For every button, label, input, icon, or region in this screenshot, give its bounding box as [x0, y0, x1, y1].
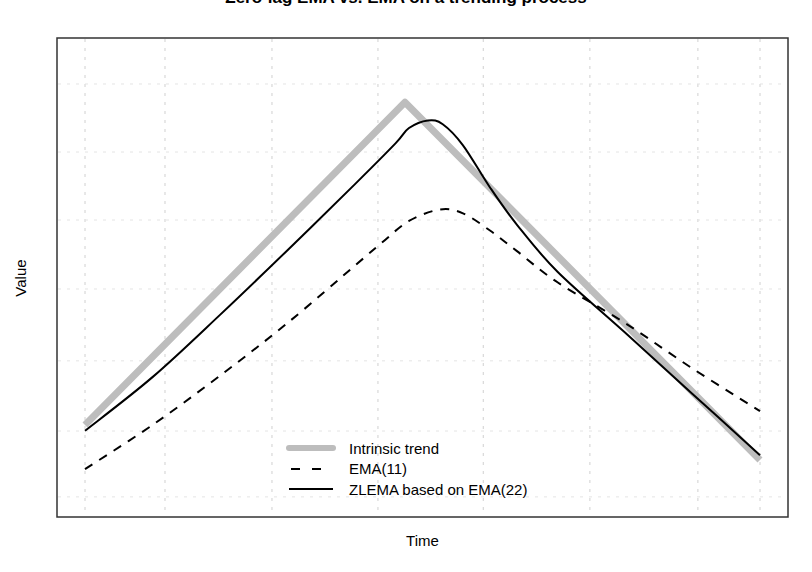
- chart-title: Zero-lag EMA vs. EMA on a trending proce…: [0, 0, 812, 8]
- series-line-ema-11-: [85, 209, 760, 469]
- series-group: [85, 102, 760, 469]
- legend-key-solid-black-icon: [285, 479, 337, 499]
- legend-label: Intrinsic trend: [349, 440, 439, 457]
- legend-item-ema11: EMA(11): [285, 459, 527, 480]
- legend-key-dashed-black-icon: [285, 459, 337, 479]
- legend-item-zlema22: ZLEMA based on EMA(22): [285, 479, 527, 500]
- legend: Intrinsic trend EMA(11) ZLEMA based on E…: [285, 438, 527, 500]
- y-axis-label: Value: [12, 259, 29, 296]
- legend-label: EMA(11): [349, 460, 407, 477]
- series-line-intrinsic-trend: [85, 102, 760, 460]
- legend-key-thick-grey-icon: [285, 438, 337, 458]
- legend-label: ZLEMA based on EMA(22): [349, 481, 527, 498]
- legend-item-intrinsic-trend: Intrinsic trend: [285, 438, 527, 459]
- x-axis-label: Time: [57, 532, 788, 549]
- series-line-zlema-based-on-ema-22-: [85, 120, 760, 455]
